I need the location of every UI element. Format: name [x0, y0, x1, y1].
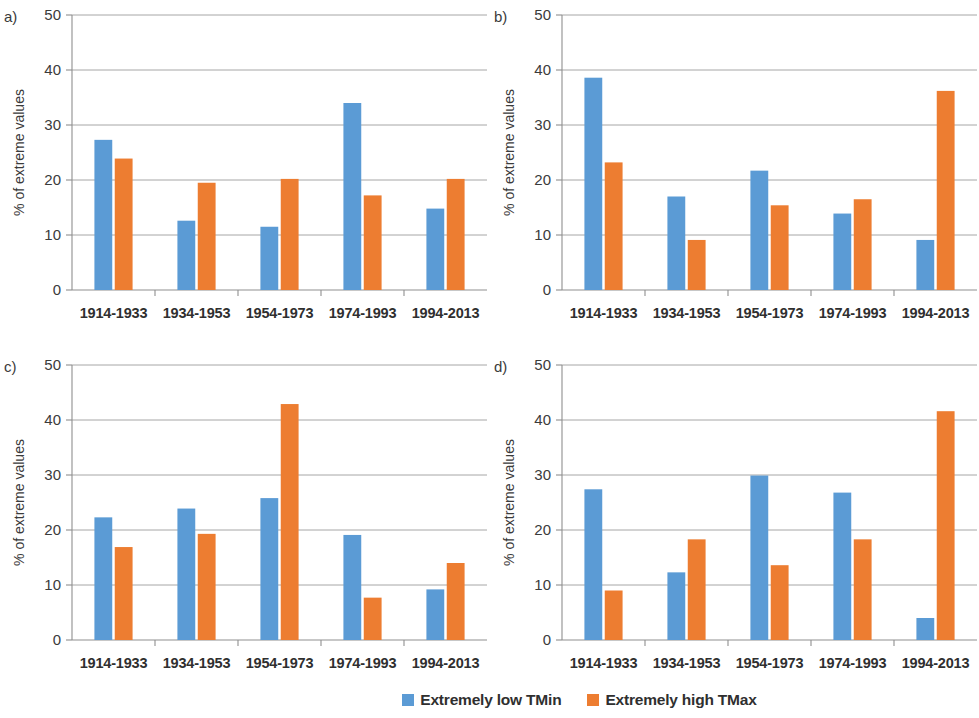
- bar: [937, 91, 955, 290]
- bar: [584, 78, 602, 290]
- y-axis-title: % of extreme values: [11, 439, 27, 566]
- bar: [854, 539, 872, 640]
- legend-label-tmin: Extremely low TMin: [420, 691, 561, 709]
- y-tick-label: 0: [543, 281, 551, 298]
- bar: [854, 199, 872, 290]
- y-tick-label: 0: [53, 631, 61, 648]
- bar: [605, 162, 623, 290]
- legend-swatch-blue-icon: [402, 694, 414, 706]
- y-tick-label: 10: [534, 576, 551, 593]
- x-category-label: 1954-1973: [246, 305, 314, 321]
- bar: [750, 476, 768, 640]
- bar: [688, 539, 706, 640]
- x-category-label: 1914-1933: [80, 305, 148, 321]
- y-tick-label: 50: [44, 356, 61, 373]
- y-tick-label: 0: [543, 631, 551, 648]
- bar: [343, 103, 361, 290]
- y-tick-label: 50: [534, 6, 551, 23]
- bar: [177, 221, 195, 290]
- bar: [343, 535, 361, 640]
- x-category-label: 1994-2013: [902, 655, 970, 671]
- x-category-label: 1934-1953: [653, 655, 721, 671]
- x-category-label: 1994-2013: [902, 305, 970, 321]
- bar: [447, 563, 465, 640]
- x-category-label: 1994-2013: [412, 655, 480, 671]
- y-axis-title: % of extreme values: [501, 89, 517, 216]
- x-category-label: 1934-1953: [163, 305, 231, 321]
- y-tick-label: 40: [44, 411, 61, 428]
- chart-panel-c: c)% of extreme values010203040501914-193…: [0, 350, 489, 695]
- y-tick-label: 30: [44, 116, 61, 133]
- x-category-label: 1934-1953: [163, 655, 231, 671]
- x-category-label: 1954-1973: [736, 305, 804, 321]
- panel-letter: b): [494, 8, 507, 25]
- x-category-label: 1974-1993: [819, 655, 887, 671]
- legend-label-tmax: Extremely high TMax: [605, 691, 756, 709]
- panel-letter: a): [4, 8, 17, 25]
- y-tick-label: 40: [534, 411, 551, 428]
- bar: [584, 489, 602, 640]
- chart-panel-a: a)% of extreme values010203040501914-193…: [0, 0, 489, 345]
- bar: [260, 227, 278, 290]
- legend-entry-tmin: Extremely low TMin: [402, 691, 561, 709]
- y-tick-label: 40: [534, 61, 551, 78]
- y-tick-label: 30: [44, 466, 61, 483]
- bar: [281, 404, 299, 640]
- x-category-label: 1934-1953: [653, 305, 721, 321]
- bar: [771, 205, 789, 290]
- y-tick-label: 20: [534, 521, 551, 538]
- bar: [771, 565, 789, 640]
- bar: [177, 509, 195, 640]
- bar: [688, 240, 706, 290]
- chart-svg-a: a)% of extreme values010203040501914-193…: [0, 0, 489, 345]
- y-tick-label: 40: [44, 61, 61, 78]
- x-category-label: 1974-1993: [329, 305, 397, 321]
- x-category-label: 1914-1933: [570, 655, 638, 671]
- y-tick-label: 20: [534, 171, 551, 188]
- x-category-label: 1994-2013: [412, 305, 480, 321]
- y-tick-label: 10: [534, 226, 551, 243]
- bar: [281, 179, 299, 290]
- bar: [833, 493, 851, 640]
- y-tick-label: 30: [534, 466, 551, 483]
- bar: [937, 411, 955, 640]
- y-tick-label: 20: [44, 171, 61, 188]
- bar: [364, 195, 382, 290]
- bar: [605, 591, 623, 641]
- legend-entry-tmax: Extremely high TMax: [587, 691, 756, 709]
- y-tick-label: 30: [534, 116, 551, 133]
- chart-panel-b: b)% of extreme values010203040501914-193…: [490, 0, 979, 345]
- x-category-label: 1954-1973: [736, 655, 804, 671]
- y-tick-label: 50: [534, 356, 551, 373]
- panel-letter: c): [4, 358, 17, 375]
- bar: [198, 534, 216, 640]
- bar: [426, 589, 444, 640]
- bar: [198, 183, 216, 290]
- bar: [447, 179, 465, 290]
- bar: [364, 598, 382, 640]
- bar: [94, 517, 112, 640]
- legend-swatch-orange-icon: [587, 694, 599, 706]
- y-axis-title: % of extreme values: [11, 89, 27, 216]
- bar: [833, 214, 851, 290]
- chart-svg-c: c)% of extreme values010203040501914-193…: [0, 350, 489, 695]
- x-category-label: 1974-1993: [819, 305, 887, 321]
- bar: [667, 572, 685, 640]
- bar: [426, 209, 444, 290]
- chart-svg-d: d)% of extreme values010203040501914-193…: [490, 350, 979, 695]
- x-category-label: 1954-1973: [246, 655, 314, 671]
- chart-svg-b: b)% of extreme values010203040501914-193…: [490, 0, 979, 345]
- panel-letter: d): [494, 358, 507, 375]
- bar: [94, 140, 112, 290]
- y-tick-label: 0: [53, 281, 61, 298]
- bar: [667, 197, 685, 291]
- x-category-label: 1914-1933: [80, 655, 148, 671]
- figure-container: a)% of extreme values010203040501914-193…: [0, 0, 979, 718]
- chart-legend: Extremely low TMin Extremely high TMax: [0, 686, 979, 714]
- y-tick-label: 10: [44, 226, 61, 243]
- bar: [115, 159, 133, 290]
- y-axis-title: % of extreme values: [501, 439, 517, 566]
- bar: [750, 171, 768, 290]
- bar: [916, 618, 934, 640]
- x-category-label: 1974-1993: [329, 655, 397, 671]
